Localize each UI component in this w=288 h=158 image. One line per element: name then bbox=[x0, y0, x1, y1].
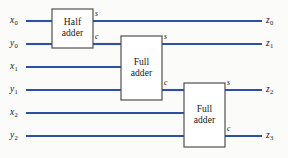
input-label-x2: x2 bbox=[10, 107, 18, 117]
output-label-z2: z2 bbox=[266, 84, 273, 94]
input-label-x2-sub: 2 bbox=[15, 111, 18, 118]
input-label-y2-sub: 2 bbox=[15, 134, 18, 141]
circuit-diagram-canvas: Half adder Full adder Full adder s c s c… bbox=[0, 0, 288, 158]
input-label-x1-sub: 1 bbox=[15, 65, 18, 72]
full-adder-2-s-pin-label: s bbox=[227, 78, 230, 87]
input-label-x1: x1 bbox=[10, 61, 18, 71]
input-label-y0: y0 bbox=[10, 38, 18, 48]
full-adder-1-s-pin-label: s bbox=[164, 32, 167, 41]
half-adder-label: Half adder bbox=[52, 17, 93, 38]
input-label-x2-base: x bbox=[10, 107, 14, 117]
half-adder-c-pin-label: c bbox=[95, 32, 98, 41]
output-label-z2-sub: 2 bbox=[270, 88, 273, 95]
full-adder-2-label-line2: adder bbox=[184, 115, 225, 126]
input-label-y2-base: y bbox=[10, 130, 14, 140]
full-adder-1-label-line1: Full bbox=[121, 57, 162, 68]
output-label-z1-sub: 1 bbox=[270, 42, 273, 49]
input-label-x1-base: x bbox=[10, 61, 14, 71]
input-label-y1-sub: 1 bbox=[15, 88, 18, 95]
full-adder-2-c-pin-label: c bbox=[227, 124, 230, 133]
input-label-y1-base: y bbox=[10, 84, 14, 94]
full-adder-1-label: Full adder bbox=[121, 57, 162, 78]
output-label-z3-sub: 3 bbox=[270, 134, 273, 141]
full-adder-2-label-line1: Full bbox=[184, 104, 225, 115]
full-adder-2-label: Full adder bbox=[184, 104, 225, 125]
output-label-z3: z3 bbox=[266, 130, 273, 140]
input-label-y2: y2 bbox=[10, 130, 18, 140]
input-label-y0-base: y bbox=[10, 38, 14, 48]
half-adder-s-pin-label: s bbox=[95, 9, 98, 18]
output-label-z0: z0 bbox=[266, 15, 273, 25]
input-label-y1: y1 bbox=[10, 84, 18, 94]
half-adder-label-line2: adder bbox=[52, 28, 93, 39]
full-adder-1-label-line2: adder bbox=[121, 68, 162, 79]
half-adder-label-line1: Half bbox=[52, 17, 93, 28]
full-adder-1-c-pin-label: c bbox=[164, 78, 167, 87]
input-label-x0-base: x bbox=[10, 15, 14, 25]
output-label-z0-sub: 0 bbox=[270, 19, 273, 26]
output-label-z1: z1 bbox=[266, 38, 273, 48]
input-label-x0-sub: 0 bbox=[15, 19, 18, 26]
input-label-y0-sub: 0 bbox=[15, 42, 18, 49]
circuit-svg bbox=[0, 0, 288, 158]
input-label-x0: x0 bbox=[10, 15, 18, 25]
